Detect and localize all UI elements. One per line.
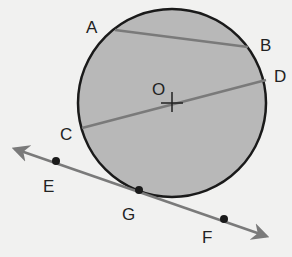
diagram-canvas: A B D C O E G F bbox=[0, 0, 292, 257]
point-f bbox=[220, 215, 228, 223]
label-e: E bbox=[43, 177, 54, 196]
label-b: B bbox=[260, 36, 271, 55]
label-d: D bbox=[274, 67, 286, 86]
point-e bbox=[52, 157, 60, 165]
label-f: F bbox=[202, 228, 212, 247]
label-a: A bbox=[86, 18, 98, 37]
label-g: G bbox=[122, 205, 135, 224]
label-o: O bbox=[152, 80, 165, 99]
point-g bbox=[135, 186, 143, 194]
label-c: C bbox=[60, 125, 72, 144]
geometry-diagram: A B D C O E G F bbox=[0, 0, 292, 257]
